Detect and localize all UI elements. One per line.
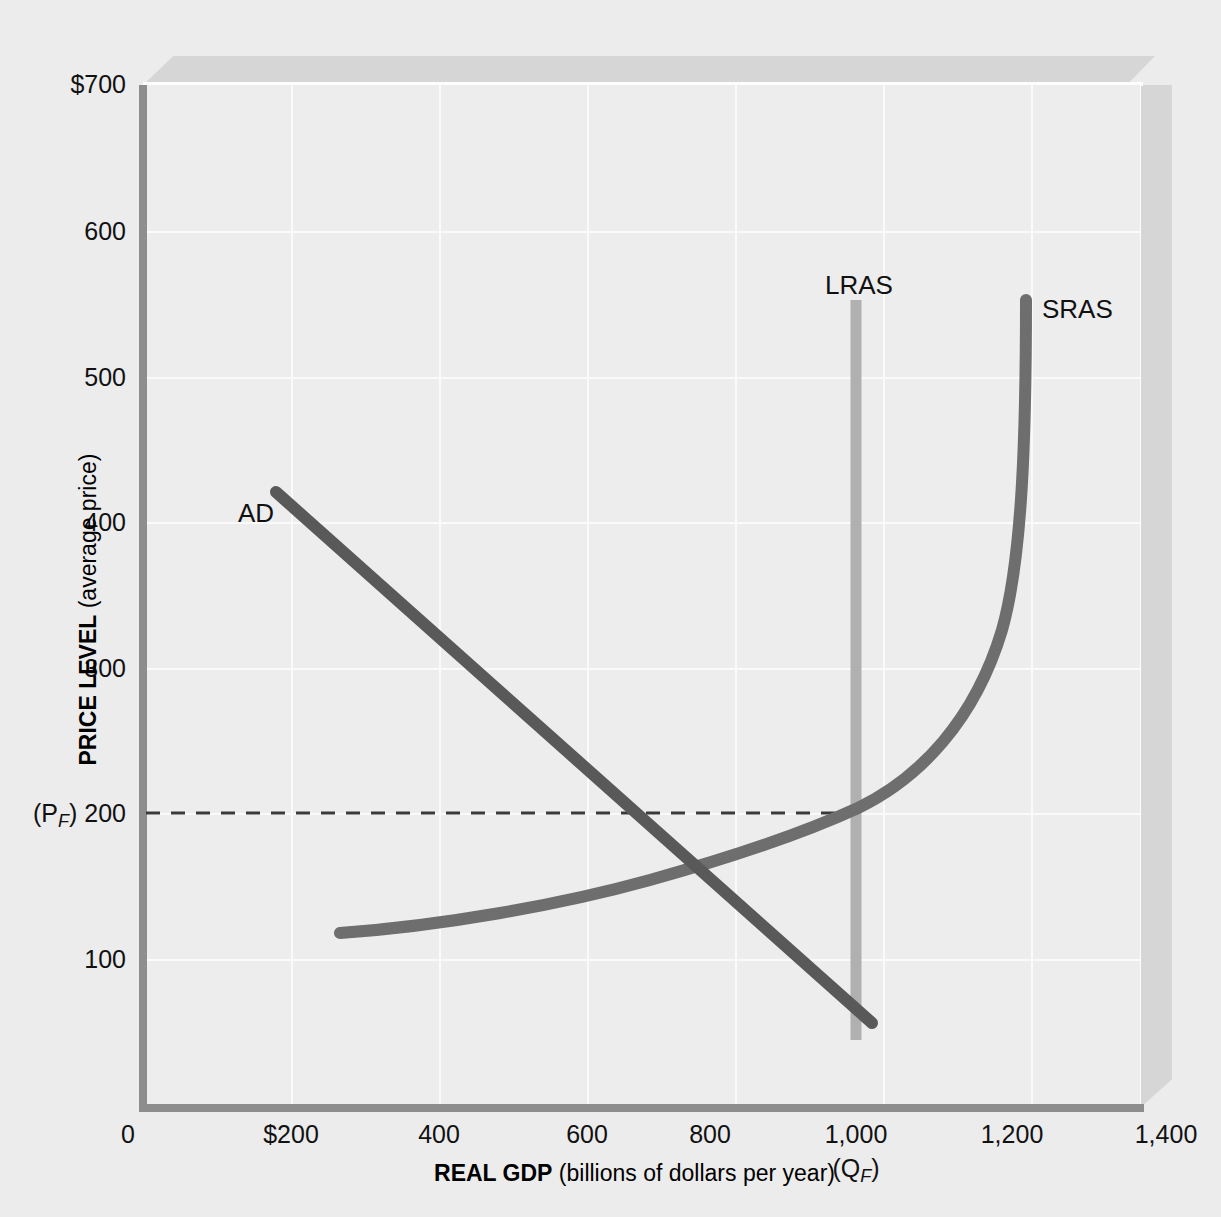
pf-open: (P — [33, 799, 58, 827]
curves-overlay — [0, 0, 1221, 1217]
x-axis-title-bold: REAL GDP — [434, 1160, 552, 1186]
x-tick-0: 0 — [121, 1122, 135, 1147]
y-tick-label-600: 600 — [84, 219, 126, 244]
sras-curve-label: SRAS — [1042, 296, 1113, 322]
y-axis-title: PRICE LEVEL (average price) — [75, 466, 102, 766]
figure-container: $700 600 500 400 300 (PF) 200 100 0 $200… — [0, 0, 1221, 1217]
x-axis-title: REAL GDP (billions of dollars per year) — [0, 1160, 1221, 1187]
pf-close: ) — [69, 799, 77, 827]
y-tick-label-200: (PF) 200 — [33, 801, 126, 830]
x-tick-400: 400 — [418, 1122, 460, 1147]
x-tick-800: 800 — [689, 1122, 731, 1147]
x-tick-600: 600 — [566, 1122, 608, 1147]
x-axis-title-rest: (billions of dollars per year) — [552, 1160, 835, 1186]
x-tick-1200: 1,200 — [981, 1122, 1044, 1147]
y-axis-title-rest: (average price) — [75, 454, 101, 615]
y-axis-title-bold: PRICE LEVEL — [75, 615, 101, 766]
ad-curve — [276, 492, 872, 1023]
x-tick-1000: 1,000 — [825, 1122, 888, 1147]
ad-curve-label: AD — [238, 500, 274, 526]
pf-subscript: F — [58, 811, 69, 831]
x-tick-1400: 1,400 — [1135, 1122, 1198, 1147]
y-tick-label-700: $700 — [70, 72, 126, 97]
y-tick-200-value: 200 — [84, 799, 126, 827]
y-tick-label-100: 100 — [84, 947, 126, 972]
x-tick-200: $200 — [263, 1122, 319, 1147]
y-tick-label-500: 500 — [84, 365, 126, 390]
pf-annotation-label: (PF) — [33, 799, 77, 827]
sras-curve — [340, 300, 1026, 933]
lras-curve-label: LRAS — [825, 272, 893, 298]
